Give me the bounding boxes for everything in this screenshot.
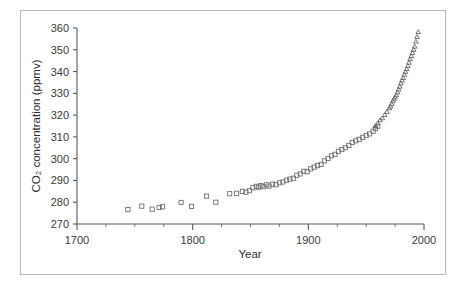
x-tick-label: 2000 [412,234,436,246]
data-point-square [126,208,130,212]
y-tick-label: 270 [51,218,69,230]
x-axis-title: Year [238,248,261,260]
data-point-triangle [412,44,417,48]
data-point-triangle [414,39,419,43]
data-point-triangle [389,102,394,106]
y-tick-label: 320 [51,109,69,121]
data-point-square [150,207,154,211]
data-point-square [140,204,144,208]
y-tick-label: 310 [51,131,69,143]
y-axis-title: CO₂ concentration (ppmv) [30,59,42,192]
x-tick-label: 1700 [65,234,89,246]
data-point-square [214,200,218,204]
data-point-square [228,192,232,196]
y-tick-label: 340 [51,66,69,78]
data-point-triangle [415,35,420,39]
series-mauna-loa-markers [373,30,421,128]
co2-scatter-chart: 270280290300310320330340350360 170018001… [0,0,468,286]
data-point-square [189,204,193,208]
y-tick-label: 300 [51,153,69,165]
data-point-square [235,191,239,195]
x-tick-label: 1900 [296,234,320,246]
y-tick-label: 350 [51,44,69,56]
y-tick-label: 360 [51,22,69,34]
data-point-square [179,200,183,204]
series-ice-core-markers [126,124,380,212]
y-axis-tick-labels: 270280290300310320330340350360 [51,22,69,230]
y-axis-ticks [73,28,77,224]
data-point-triangle [385,110,390,114]
y-tick-label: 280 [51,196,69,208]
axis-lines [77,28,424,224]
x-axis-tick-labels: 1700180019002000 [65,234,436,246]
data-point-triangle [416,30,421,34]
y-tick-label: 330 [51,87,69,99]
data-point-triangle [400,78,405,82]
y-tick-label: 290 [51,174,69,186]
figure-container: 270280290300310320330340350360 170018001… [0,0,468,286]
x-tick-label: 1800 [180,234,204,246]
data-point-square [204,194,208,198]
x-axis-ticks [77,224,424,230]
